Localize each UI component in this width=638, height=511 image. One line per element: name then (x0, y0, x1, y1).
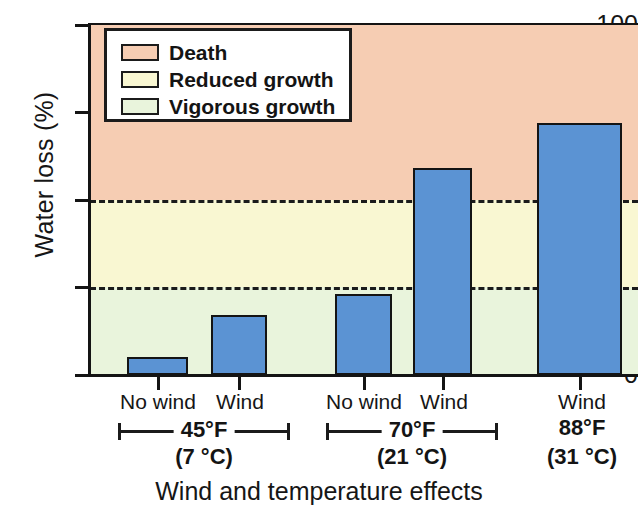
bar-45f-no-wind (127, 357, 188, 375)
x-tick-mark-1 (157, 377, 160, 390)
x-tick-mark-4 (442, 377, 445, 390)
group-bracket-45f: 45°F (118, 418, 290, 444)
legend-item-reduced-growth: Reduced growth (121, 66, 349, 92)
y-axis-line (88, 23, 91, 377)
legend-swatch-vigorous-growth (121, 98, 159, 115)
legend-item-vigorous-growth: Vigorous growth (121, 93, 349, 119)
y-tick-mark-100 (75, 24, 89, 27)
y-axis-title: Water loss (%) (30, 35, 59, 315)
bar-70f-wind (413, 168, 472, 375)
water-loss-bar-chart: Water loss (%) 100 75 50 25 0 No wind Wi… (0, 0, 638, 511)
x-category-label-5: Wind (558, 390, 606, 414)
x-category-label-4: Wind (420, 390, 468, 414)
x-tick-mark-3 (363, 377, 366, 390)
group-bracket-70f: 70°F (326, 418, 498, 444)
bar-88f-wind (537, 123, 622, 375)
legend-label-death: Death (169, 42, 227, 63)
bar-45f-wind (211, 315, 267, 375)
group-label-88f: 88°F (559, 415, 606, 441)
x-axis-title: Wind and temperature effects (0, 477, 638, 506)
x-tick-mark-5 (579, 377, 582, 390)
bar-70f-no-wind (335, 294, 392, 375)
y-tick-mark-75 (75, 111, 89, 114)
legend-item-death: Death (121, 39, 349, 65)
group-label-70f: 70°F (382, 417, 443, 443)
x-tick-mark-2 (238, 377, 241, 390)
group-bracket-cap-right (287, 423, 290, 440)
x-category-label-1: No wind (120, 390, 196, 414)
group-sublabel-45f: (7 °C) (175, 444, 233, 470)
group-sublabel-88f: (31 °C) (547, 444, 617, 470)
y-tick-mark-25 (75, 286, 89, 289)
x-category-label-2: Wind (216, 390, 264, 414)
group-bracket-cap-right (495, 423, 498, 440)
group-label-45f: 45°F (174, 417, 235, 443)
x-category-label-3: No wind (326, 390, 402, 414)
plot-top-border (88, 23, 638, 25)
group-sublabel-70f: (21 °C) (377, 444, 447, 470)
y-tick-mark-50 (75, 199, 89, 202)
y-tick-mark-0 (75, 374, 89, 377)
legend: Death Reduced growth Vigorous growth (104, 28, 352, 122)
group-bracket-cap-left (118, 423, 121, 440)
legend-label-vigorous-growth: Vigorous growth (169, 96, 335, 117)
group-bracket-cap-left (326, 423, 329, 440)
legend-swatch-death (121, 44, 159, 61)
legend-swatch-reduced-growth (121, 71, 159, 88)
legend-label-reduced-growth: Reduced growth (169, 69, 334, 90)
